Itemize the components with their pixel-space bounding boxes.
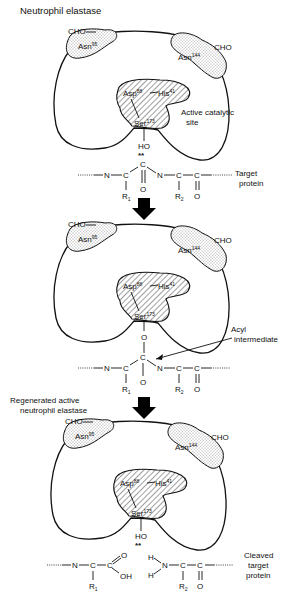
svg-text:N: N bbox=[157, 171, 163, 180]
svg-text:C: C bbox=[194, 364, 200, 373]
active-site-label-1: Active catalytic bbox=[181, 108, 234, 117]
ho-label: HO bbox=[138, 142, 150, 151]
svg-text:CHO: CHO bbox=[214, 236, 232, 245]
svg-text:C: C bbox=[180, 561, 186, 570]
svg-text:O: O bbox=[194, 192, 200, 201]
svg-text:C: C bbox=[123, 171, 129, 180]
svg-text:O: O bbox=[194, 385, 200, 394]
acyl-label-2: intermediate bbox=[234, 335, 279, 344]
svg-text:CHO: CHO bbox=[211, 433, 229, 442]
elastase-mechanism-diagram: Neutrophil elastase CHO Asn95 CHO Asn144… bbox=[0, 0, 287, 597]
active-site-label-2: site bbox=[186, 118, 199, 127]
svg-text:N: N bbox=[157, 364, 163, 373]
svg-text:R2: R2 bbox=[175, 192, 184, 202]
target-label-1: Target bbox=[235, 169, 258, 178]
svg-text:R1: R1 bbox=[89, 582, 98, 592]
cho-right: CHO bbox=[214, 43, 232, 52]
svg-text:H: H bbox=[148, 571, 154, 580]
down-arrow-icon bbox=[132, 198, 156, 220]
svg-text:R1: R1 bbox=[122, 192, 131, 202]
svg-text:C: C bbox=[176, 171, 182, 180]
cleaved-label-3: protein bbox=[246, 571, 270, 580]
acyl-label-1: Acyl bbox=[231, 325, 246, 334]
svg-text:C: C bbox=[176, 364, 182, 373]
callout-arrowhead-icon bbox=[156, 354, 163, 360]
svg-text:CHO: CHO bbox=[68, 220, 86, 229]
svg-text:C: C bbox=[90, 561, 96, 570]
svg-text:N: N bbox=[104, 171, 110, 180]
panel-2: CHO Asn95 CHO Asn144 Asp88 His41 Ser173 … bbox=[54, 220, 279, 395]
svg-text:N: N bbox=[162, 561, 168, 570]
svg-text:HO: HO bbox=[135, 532, 147, 541]
svg-text:C: C bbox=[140, 160, 146, 169]
svg-text:C: C bbox=[194, 171, 200, 180]
svg-text:C: C bbox=[123, 364, 129, 373]
down-arrow-icon bbox=[132, 397, 156, 419]
panel-3: CHO Asn95 CHO Asn144 Asp88 His41 Ser173 … bbox=[47, 417, 273, 592]
svg-text:R2: R2 bbox=[175, 385, 184, 395]
svg-text:C: C bbox=[140, 353, 146, 362]
svg-text:O: O bbox=[197, 582, 203, 591]
cho-left: CHO bbox=[68, 27, 86, 36]
svg-text:H: H bbox=[148, 553, 154, 562]
svg-text:O: O bbox=[140, 185, 146, 194]
cleaved-label-2: target bbox=[248, 561, 269, 570]
svg-text:N: N bbox=[104, 364, 110, 373]
svg-text:C: C bbox=[107, 561, 113, 570]
svg-text:**: ** bbox=[135, 541, 142, 550]
svg-text:OH: OH bbox=[120, 572, 132, 581]
electron-pair: ** bbox=[138, 151, 145, 160]
panel-1: Neutrophil elastase CHO Asn95 CHO Asn144… bbox=[20, 5, 263, 202]
svg-text:C: C bbox=[197, 561, 203, 570]
svg-text:R1: R1 bbox=[122, 385, 131, 395]
figure-title: Neutrophil elastase bbox=[20, 5, 101, 16]
target-label-2: protein bbox=[239, 179, 263, 188]
svg-text:O: O bbox=[121, 551, 127, 560]
svg-text:O: O bbox=[140, 378, 146, 387]
svg-text:R2: R2 bbox=[179, 582, 188, 592]
regenerated-label-2: neutrophil elastase bbox=[20, 406, 88, 415]
regenerated-label-1: Regenerated active bbox=[10, 396, 80, 405]
ester-oxygen: O bbox=[141, 333, 147, 342]
cleaved-label-1: Cleaved bbox=[244, 551, 273, 560]
svg-text:N: N bbox=[72, 561, 78, 570]
svg-text:CHO: CHO bbox=[65, 417, 83, 426]
